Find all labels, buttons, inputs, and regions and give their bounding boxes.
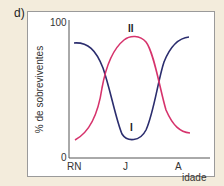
x-axis-title: idade: [182, 172, 206, 183]
x-tick-label-rn: RN: [67, 161, 81, 172]
x-tick-label-j: J: [123, 161, 128, 172]
curve-label-I: I: [130, 122, 133, 133]
y-axis-title: % de sobreviventes: [34, 45, 45, 135]
curve-label-II: II: [128, 23, 134, 34]
y-max-tick-label: 100: [50, 17, 67, 28]
x-tick-label-a: A: [175, 161, 182, 172]
y-min-tick-label: 0: [61, 152, 67, 163]
